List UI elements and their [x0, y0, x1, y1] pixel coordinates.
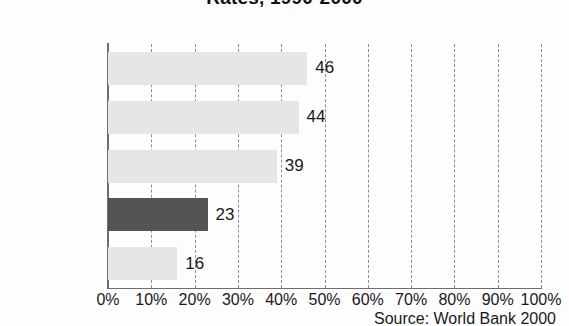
chart-title: Rates, 1990-2000 [0, 0, 569, 9]
bar-row: 44 [108, 101, 541, 134]
source-note: Source: World Bank 2000 [0, 310, 556, 326]
bar-bangladesh[interactable] [108, 150, 277, 183]
x-axis-line [107, 288, 542, 289]
bar-india[interactable] [108, 198, 208, 231]
x-tick-0pct: 0% [96, 291, 119, 309]
plot-area: 4644392316 [108, 44, 541, 288]
x-tick-20pct: 20% [179, 291, 211, 309]
x-tick-100pct: 100% [521, 291, 562, 309]
bar-pakistan[interactable] [108, 247, 177, 280]
x-tick-90pct: 90% [482, 291, 514, 309]
chart-page: Rates, 1990-2000 4644392316 NepalSri Lan… [0, 0, 569, 326]
source-note-container: Source: World Bank 2000 [0, 310, 569, 326]
x-tick-80pct: 80% [438, 291, 470, 309]
bar-row: 39 [108, 150, 541, 183]
x-tick-50pct: 50% [308, 291, 340, 309]
gridline-100pct [541, 44, 542, 288]
bar-row: 46 [108, 52, 541, 85]
bar-nepal[interactable] [108, 52, 307, 85]
chart-title-container: Rates, 1990-2000 [0, 0, 569, 11]
bar-value-pakistan: 16 [185, 254, 204, 274]
bar-row: 23 [108, 198, 541, 231]
x-tick-60pct: 60% [352, 291, 384, 309]
x-tick-40pct: 40% [265, 291, 297, 309]
bar-sri-lanka[interactable] [108, 101, 299, 134]
bar-value-india: 23 [216, 205, 235, 225]
bar-value-sri-lanka: 44 [307, 107, 326, 127]
bar-value-bangladesh: 39 [285, 156, 304, 176]
bar-value-nepal: 46 [315, 58, 334, 78]
x-tick-70pct: 70% [395, 291, 427, 309]
bar-row: 16 [108, 247, 541, 280]
x-tick-10pct: 10% [135, 291, 167, 309]
x-tick-30pct: 30% [222, 291, 254, 309]
